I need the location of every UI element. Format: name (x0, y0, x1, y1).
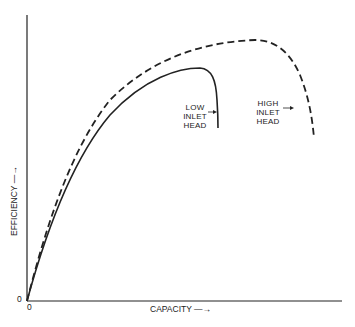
label-line: LOW (186, 103, 205, 112)
x-axis-label: CAPACITY —→ (150, 304, 211, 314)
label-line: HEAD (183, 121, 206, 130)
low-inlet-head-label: LOW INLET HEAD (183, 103, 207, 130)
label-line: HEAD (256, 117, 279, 126)
high-inlet-head-label: HIGH INLET HEAD (254, 99, 282, 126)
label-line: HIGH (258, 99, 279, 108)
y-axis-label: EFFICIENCY —→ (9, 166, 19, 236)
x-origin-label: 0 (27, 302, 32, 312)
y-origin-label: 0 (17, 294, 22, 304)
chart-canvas (0, 0, 355, 327)
label-line: INLET (183, 112, 207, 121)
label-line: INLET (256, 108, 280, 117)
high-inlet-head-curve (27, 40, 314, 301)
